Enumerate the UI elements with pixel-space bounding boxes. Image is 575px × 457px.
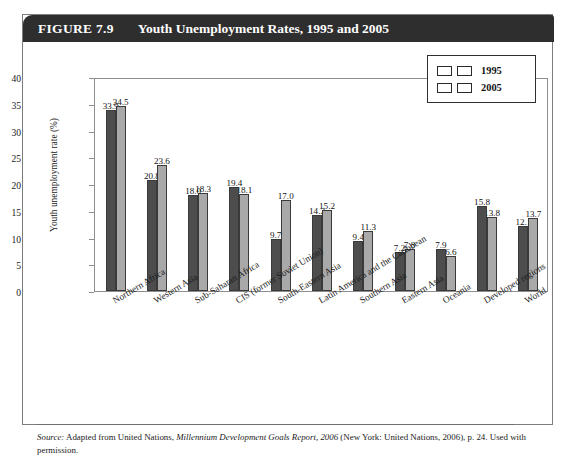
bar-1995 [477,206,487,291]
figure-title: Youth Unemployment Rates, 1995 and 2005 [138,21,389,37]
bars-container: 33.934.520.823.618.018.319.418.19.717.01… [95,79,547,291]
bar-2005 [198,193,208,291]
legend-swatch-2005 [457,83,472,93]
legend-shadow-swatch-2005 [437,83,452,93]
bar-group [353,79,373,291]
y-tick-label: 20 [0,180,21,191]
source-publication-title: Millennium Development Goals Report, 200… [176,432,338,442]
bar-group [477,79,497,291]
y-tick-label: 0 [0,287,21,298]
legend-item-2005: 2005 [437,79,535,96]
legend-shadow-swatch-1995 [437,66,452,76]
y-tick-label: 25 [0,153,21,164]
y-tick-mark [89,292,94,293]
bar-2005 [116,106,126,291]
plot-box: 33.934.520.823.618.018.319.418.19.717.01… [94,78,548,292]
y-tick-label: 10 [0,233,21,244]
figure-frame: FIGURE 7.9 Youth Unemployment Rates, 199… [22,14,553,425]
y-tick-label: 30 [0,126,21,137]
source-divider [37,424,514,425]
source-note: Source: Adapted from United Nations, Mil… [37,431,529,457]
chart-legend: 1995 2005 [427,55,536,103]
legend-label-2005: 2005 [481,82,502,93]
legend-item-1995: 1995 [437,62,535,79]
legend-label-1995: 1995 [481,65,502,76]
bar-group [229,79,249,291]
bar-2005 [405,249,415,291]
bar-2005 [363,231,373,291]
bar-2005 [528,218,538,291]
figure-header: FIGURE 7.9 Youth Unemployment Rates, 199… [23,15,554,42]
bar-2005 [487,217,497,291]
y-tick-label: 5 [0,260,21,271]
bar-1995 [106,110,116,291]
bar-group [147,79,167,291]
bar-group [106,79,126,291]
y-tick-label: 15 [0,206,21,217]
chart-area: Youth unemployment rate (%) 051015202530… [23,42,554,426]
source-text-before: Adapted from United Nations, [64,432,176,442]
bar-group [518,79,538,291]
source-label: Source: [37,432,64,442]
legend-swatch-1995 [457,66,472,76]
y-axis-title: Youth unemployment rate (%) [49,68,59,283]
bar-group [436,79,456,291]
figure-number: FIGURE 7.9 [38,21,114,37]
bar-2005 [446,256,456,291]
y-tick-label: 40 [0,73,21,84]
y-tick-label: 35 [0,99,21,110]
bar-group [271,79,291,291]
bar-group [188,79,208,291]
